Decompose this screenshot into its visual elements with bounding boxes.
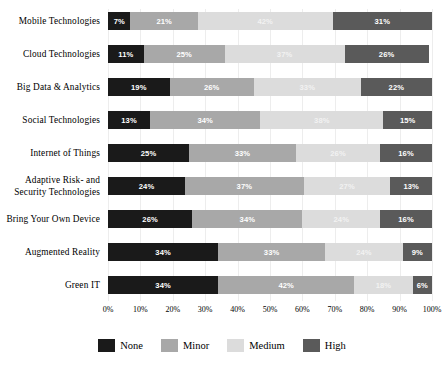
segment-value-label: 24% (356, 248, 372, 257)
segment-value-label: 25% (176, 50, 192, 59)
segment-value-label: 6% (417, 281, 428, 290)
bar-segment-minor: 42% (218, 276, 354, 294)
category-label: Big Data & Analytics (0, 75, 100, 99)
bar-segment-high: 16% (380, 144, 432, 162)
stacked-bar: 11%25%37%26% (108, 45, 432, 63)
bar-segment-none: 11% (108, 45, 144, 63)
segment-value-label: 13% (121, 116, 137, 125)
bar-segment-minor: 26% (170, 78, 254, 96)
legend-swatch-high (303, 339, 320, 352)
segment-value-label: 37% (237, 182, 253, 191)
segment-value-label: 26% (142, 215, 158, 224)
chart-row: Social Technologies13%34%38%15% (0, 108, 444, 141)
segment-value-label: 19% (131, 83, 147, 92)
bar-segment-medium: 33% (254, 78, 361, 96)
stacked-bar: 25%33%26%16% (108, 144, 432, 162)
segment-value-label: 34% (240, 215, 256, 224)
bar-segment-high: 13% (390, 177, 432, 195)
segment-value-label: 31% (375, 17, 391, 26)
segment-value-label: 24% (334, 215, 350, 224)
segment-value-label: 33% (264, 248, 280, 257)
bar-segment-medium: 24% (325, 243, 403, 261)
x-axis-tick-label: 30% (198, 305, 213, 314)
bar-segment-minor: 33% (218, 243, 325, 261)
segment-value-label: 26% (204, 83, 220, 92)
legend-item[interactable]: Minor (161, 339, 209, 352)
x-axis-tick-label: 0% (103, 305, 114, 314)
category-label: Mobile Technologies (0, 9, 100, 33)
segment-value-label: 38% (314, 116, 330, 125)
bar-segment-medium: 38% (260, 111, 383, 129)
chart-row: Big Data & Analytics19%26%33%22% (0, 75, 444, 108)
legend-item[interactable]: None (98, 339, 143, 352)
category-label: Green IT (0, 273, 100, 297)
bar-segment-high: 6% (413, 276, 432, 294)
legend-swatch-medium (227, 339, 244, 352)
segment-value-label: 37% (277, 50, 293, 59)
legend-item[interactable]: Medium (227, 339, 285, 352)
x-axis: 0%10%20%30%40%50%60%70%80%90%100% (108, 303, 432, 319)
bar-segment-medium: 42% (198, 12, 333, 30)
category-label: Adaptive Risk- and Security Technologies (0, 174, 100, 198)
bar-segment-medium: 27% (304, 177, 391, 195)
segment-value-label: 9% (412, 248, 423, 257)
segment-value-label: 34% (155, 281, 171, 290)
category-label: Social Technologies (0, 108, 100, 132)
segment-value-label: 42% (278, 281, 294, 290)
category-label: Cloud Technologies (0, 42, 100, 66)
segment-value-label: 33% (299, 83, 315, 92)
segment-value-label: 22% (389, 83, 405, 92)
bar-segment-minor: 37% (185, 177, 304, 195)
bar-segment-high: 9% (403, 243, 432, 261)
bar-segment-none: 26% (108, 210, 192, 228)
bar-segment-medium: 37% (225, 45, 345, 63)
x-axis-tick-label: 90% (392, 305, 407, 314)
bar-segment-none: 19% (108, 78, 170, 96)
bar-segment-high: 31% (333, 12, 432, 30)
segment-value-label: 27% (339, 182, 355, 191)
chart-row: Green IT34%42%18%6% (0, 273, 444, 306)
legend-swatch-none (98, 339, 115, 352)
bar-segment-none: 24% (108, 177, 185, 195)
chart-row: Internet of Things25%33%26%16% (0, 141, 444, 174)
chart-plot-area: Mobile Technologies7%21%42%31%Cloud Tech… (0, 9, 444, 306)
stacked-bar: 13%34%38%15% (108, 111, 432, 129)
segment-value-label: 42% (257, 17, 273, 26)
x-axis-tick-label: 100% (423, 305, 442, 314)
legend-swatch-minor (161, 339, 178, 352)
category-label: Augmented Reality (0, 240, 100, 264)
bar-segment-high: 22% (361, 78, 432, 96)
bar-segment-none: 13% (108, 111, 150, 129)
chart-row: Augmented Reality34%33%24%9% (0, 240, 444, 273)
legend-label: None (120, 340, 143, 351)
segment-value-label: 18% (376, 281, 392, 290)
chart-row: Bring Your Own Device26%34%24%16% (0, 207, 444, 240)
x-axis-tick-label: 10% (133, 305, 148, 314)
stacked-bar: 7%21%42%31% (108, 12, 432, 30)
segment-value-label: 26% (330, 149, 346, 158)
x-axis-tick-label: 60% (295, 305, 310, 314)
segment-value-label: 21% (156, 17, 172, 26)
segment-value-label: 13% (403, 182, 419, 191)
bar-segment-none: 7% (108, 12, 130, 30)
segment-value-label: 34% (155, 248, 171, 257)
bar-segment-high: 16% (380, 210, 432, 228)
bar-segment-none: 34% (108, 276, 218, 294)
x-axis-tick-label: 50% (263, 305, 278, 314)
x-axis-tick-label: 80% (360, 305, 375, 314)
bar-segment-minor: 33% (189, 144, 296, 162)
bar-segment-high: 26% (345, 45, 429, 63)
category-label: Bring Your Own Device (0, 207, 100, 231)
legend-label: Minor (183, 340, 209, 351)
bar-segment-none: 34% (108, 243, 218, 261)
x-axis-tick-label: 70% (327, 305, 342, 314)
segment-value-label: 25% (141, 149, 157, 158)
segment-value-label: 15% (400, 116, 416, 125)
bar-segment-minor: 21% (130, 12, 197, 30)
segment-value-label: 34% (197, 116, 213, 125)
chart-row: Cloud Technologies11%25%37%26% (0, 42, 444, 75)
stacked-bar: 34%42%18%6% (108, 276, 432, 294)
segment-value-label: 33% (235, 149, 251, 158)
legend-item[interactable]: High (303, 339, 346, 352)
legend-label: High (325, 340, 346, 351)
